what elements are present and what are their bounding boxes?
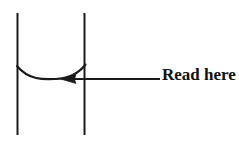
annotation-label: Read here xyxy=(162,64,236,85)
meniscus-diagram: Read here xyxy=(0,0,239,143)
